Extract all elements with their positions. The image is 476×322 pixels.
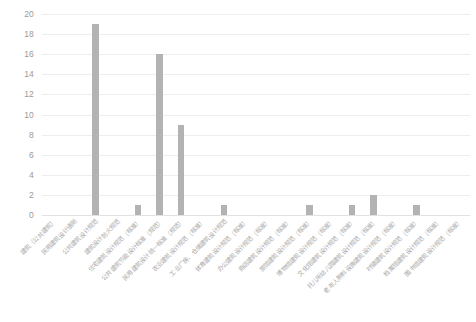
y-tick-label: 8	[29, 130, 34, 139]
bar	[156, 54, 162, 215]
y-tick-label: 10	[24, 110, 34, 119]
y-tick-label: 4	[29, 171, 34, 180]
bar	[135, 205, 141, 215]
y-tick-label: 12	[24, 90, 34, 99]
y-tick-label: 18	[24, 30, 34, 39]
y-axis: 20181614121086420	[0, 14, 40, 215]
x-axis: 建筑（公共建筑）民用建筑设计通则公共建筑设计规范建筑设计防火规范住宅建筑设计规范…	[42, 215, 470, 322]
bar	[370, 195, 376, 215]
y-tick-label: 20	[24, 10, 34, 19]
bar	[178, 125, 184, 215]
bar	[92, 24, 98, 215]
bar	[306, 205, 312, 215]
bar	[413, 205, 419, 215]
y-tick-label: 6	[29, 150, 34, 159]
bar	[349, 205, 355, 215]
x-tick-slot: 图书馆建筑设计规范（标准）	[449, 215, 470, 322]
y-tick-label: 16	[24, 50, 34, 59]
bars-layer	[42, 14, 470, 215]
bar-chart: 20181614121086420 建筑（公共建筑）民用建筑设计通则公共建筑设计…	[0, 0, 476, 322]
y-tick-label: 2	[29, 191, 34, 200]
plot-area	[42, 14, 470, 215]
y-tick-label: 0	[29, 211, 34, 220]
bar	[221, 205, 227, 215]
y-tick-label: 14	[24, 70, 34, 79]
